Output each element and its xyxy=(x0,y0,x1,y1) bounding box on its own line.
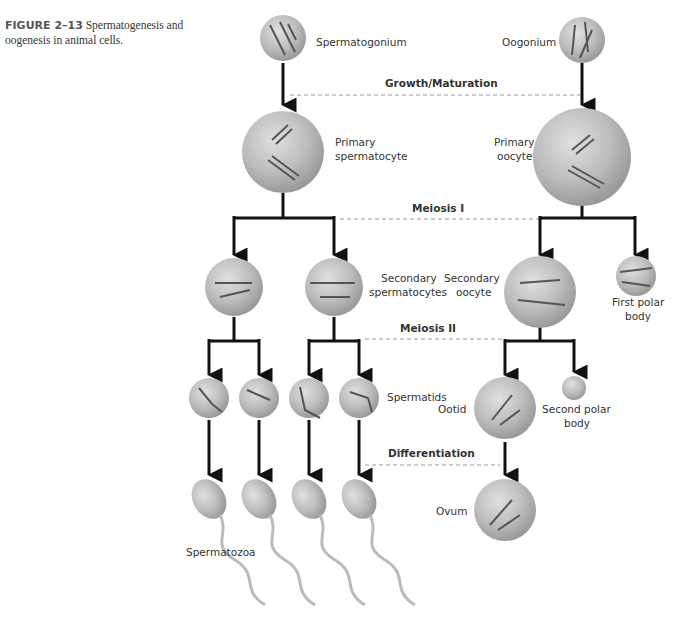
label-spermatozoa: Spermatozoa xyxy=(186,546,256,558)
label-secondary-spermatocytes-2: spermatocytes xyxy=(369,286,447,298)
first-polar-body-cell xyxy=(616,256,656,296)
label-secondary-spermatocytes-1: Secondary xyxy=(381,272,437,284)
second-polar-body-cell xyxy=(562,376,586,400)
label-ootid: Ootid xyxy=(438,403,466,415)
label-primary-spermatocyte-2: spermatocyte xyxy=(335,150,408,162)
label-second-polar-body-1: Second polar xyxy=(542,403,611,415)
ootid-cell xyxy=(474,377,536,439)
secondary-oocyte-cell xyxy=(504,256,576,328)
stage-differentiation-label: Differentiation xyxy=(388,447,475,459)
label-first-polar-body-1: First polar xyxy=(612,296,665,308)
label-primary-oocyte-2: oocyte xyxy=(497,150,532,162)
label-ovum: Ovum xyxy=(436,505,467,517)
label-spermatids: Spermatids xyxy=(387,391,447,403)
label-first-polar-body-2: body xyxy=(625,310,651,322)
label-spermatogonium: Spermatogonium xyxy=(316,36,407,48)
label-secondary-oocyte-2: oocyte xyxy=(456,286,491,298)
stage-growth-label: Growth/Maturation xyxy=(385,77,498,89)
primary-spermatocyte-cell xyxy=(242,111,324,193)
stage-meiosis1-label: Meiosis I xyxy=(412,202,464,214)
label-second-polar-body-2: body xyxy=(564,417,590,429)
stage-meiosis2-label: Meiosis II xyxy=(400,322,456,334)
label-primary-spermatocyte-1: Primary xyxy=(335,136,376,148)
ovum-cell xyxy=(474,479,536,541)
spermatid-cell xyxy=(239,378,279,418)
label-secondary-oocyte-1: Secondary xyxy=(444,272,500,284)
spermatogonium-cell xyxy=(260,15,306,61)
gametogenesis-diagram: Growth/Maturation Meiosis I Meiosis II D… xyxy=(0,0,699,622)
primary-oocyte-cell xyxy=(533,108,631,206)
oogonium-cell xyxy=(559,17,605,63)
label-primary-oocyte-1: Primary xyxy=(494,136,535,148)
spermatid-cell xyxy=(189,378,229,418)
secondary-spermatocyte-cell xyxy=(205,258,263,316)
spermatid-cell xyxy=(339,378,379,418)
label-oogonium: Oogonium xyxy=(502,36,556,48)
spermatozoon xyxy=(335,473,415,605)
secondary-spermatocyte-cell xyxy=(305,258,363,316)
